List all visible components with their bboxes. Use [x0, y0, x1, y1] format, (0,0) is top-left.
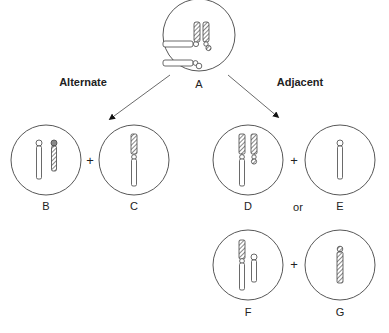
segregation-diagram [0, 0, 389, 333]
arrow-alternate [110, 75, 170, 119]
plus-fg: + [290, 257, 298, 272]
plus-bc: + [86, 153, 94, 168]
or-text: or [293, 201, 303, 213]
cell-d [213, 125, 283, 195]
cell-e [305, 125, 375, 195]
arrow-adjacent [228, 75, 278, 117]
label-g: G [336, 306, 345, 318]
label-adjacent: Adjacent [277, 76, 323, 88]
label-e: E [336, 200, 343, 212]
label-a: A [195, 78, 202, 90]
label-c: C [130, 200, 138, 212]
cell-a [163, 0, 235, 71]
label-f: F [245, 306, 252, 318]
plus-de: + [290, 153, 298, 168]
cell-c [99, 125, 169, 195]
cell-g [305, 230, 375, 300]
cell-b [11, 125, 81, 195]
label-d: D [244, 200, 252, 212]
label-alternate: Alternate [59, 76, 107, 88]
cell-f [213, 230, 283, 300]
label-b: B [42, 200, 49, 212]
